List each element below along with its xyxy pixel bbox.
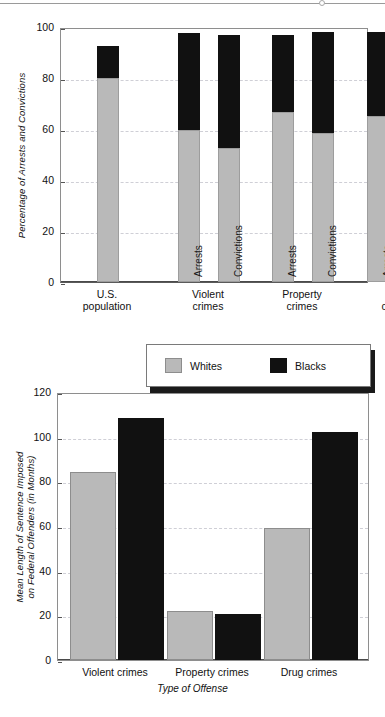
bar-segment-blacks bbox=[97, 46, 119, 78]
in-bar-label: Convictions bbox=[233, 225, 244, 277]
x-category-label-line: U.S. bbox=[62, 289, 152, 301]
y-tick-mark bbox=[58, 439, 62, 440]
y-tick-label: 40 bbox=[24, 175, 54, 185]
x-category-label: Property crimes bbox=[162, 667, 262, 679]
x-category-label: Drugcrimes bbox=[352, 289, 385, 312]
stacked-bar-chart: Percentage of Arrests and Convictions 02… bbox=[0, 8, 385, 328]
y-tick-mark bbox=[61, 182, 65, 183]
bottom-chart-plot-area bbox=[57, 393, 369, 661]
y-tick-mark bbox=[58, 573, 62, 574]
y-tick-mark bbox=[61, 284, 65, 285]
in-bar-label: Arrests bbox=[287, 245, 298, 277]
y-tick-label: 0 bbox=[24, 277, 54, 287]
x-category-label: Violent crimes bbox=[65, 667, 165, 679]
legend-item-whites: Whites bbox=[165, 358, 222, 373]
gray-swatch-icon bbox=[165, 358, 182, 373]
y-tick-mark bbox=[61, 233, 65, 234]
bar-segment-blacks bbox=[218, 35, 240, 148]
bar-segment-blacks bbox=[178, 33, 200, 130]
bar-whites bbox=[70, 472, 116, 660]
bar-blacks bbox=[312, 432, 358, 660]
x-category-label: Propertycrimes bbox=[257, 289, 347, 312]
x-category-label: Drug crimes bbox=[259, 667, 359, 679]
y-tick-mark bbox=[58, 662, 62, 663]
y-tick-mark bbox=[61, 131, 65, 132]
bar-whites bbox=[264, 528, 310, 660]
x-category-label-line: Violent bbox=[163, 289, 253, 301]
x-category-label-line: crimes bbox=[163, 301, 253, 313]
y-tick-label: 20 bbox=[24, 226, 54, 236]
y-tick-mark bbox=[58, 617, 62, 618]
y-tick-label: 80 bbox=[24, 73, 54, 83]
y-tick-mark bbox=[58, 528, 62, 529]
bar-segment-blacks bbox=[272, 35, 294, 113]
x-category-label-line: Property bbox=[257, 289, 347, 301]
legend-item-blacks: Blacks bbox=[270, 358, 326, 373]
x-category-label-line: Drug bbox=[352, 289, 385, 301]
legend-label-whites: Whites bbox=[190, 360, 222, 372]
grouped-bar-chart: Whites Blacks Mean Length of Sentence Im… bbox=[0, 340, 385, 717]
y-tick-label: 80 bbox=[21, 476, 51, 486]
bottom-chart-x-axis-title: Type of Offense bbox=[0, 683, 385, 694]
y-tick-mark bbox=[58, 394, 62, 395]
figure-page: Percentage of Arrests and Convictions 02… bbox=[0, 0, 385, 717]
x-category-label-line: crimes bbox=[257, 301, 347, 313]
bar-blacks bbox=[118, 418, 164, 660]
bar-whites bbox=[167, 611, 213, 660]
y-tick-label: 0 bbox=[21, 655, 51, 665]
y-tick-mark bbox=[61, 80, 65, 81]
bar-segment-blacks bbox=[312, 32, 334, 133]
page-corner-dot-icon bbox=[319, 0, 325, 6]
legend-label-blacks: Blacks bbox=[295, 360, 326, 372]
y-tick-label: 20 bbox=[21, 610, 51, 620]
y-tick-label: 100 bbox=[24, 22, 54, 32]
black-swatch-icon bbox=[270, 358, 287, 373]
stacked-bar bbox=[97, 46, 119, 282]
y-tick-mark bbox=[58, 483, 62, 484]
x-category-label: Violentcrimes bbox=[163, 289, 253, 312]
legend: Whites Blacks bbox=[146, 344, 371, 387]
y-tick-label: 60 bbox=[21, 521, 51, 531]
in-bar-label: Arrests bbox=[193, 245, 204, 277]
x-category-label-line: crimes bbox=[352, 301, 385, 313]
y-tick-mark bbox=[61, 29, 65, 30]
y-tick-label: 40 bbox=[21, 566, 51, 576]
y-tick-label: 100 bbox=[21, 432, 51, 442]
x-category-label: U.S.population bbox=[62, 289, 152, 312]
top-chart-plot-area bbox=[60, 28, 368, 283]
top-chart-y-axis-title: Percentage of Arrests and Convictions bbox=[16, 28, 27, 283]
bar-blacks bbox=[215, 614, 261, 660]
y-tick-label: 60 bbox=[24, 124, 54, 134]
bar-segment-blacks bbox=[367, 32, 385, 116]
in-bar-label: Convictions bbox=[327, 225, 338, 277]
x-category-label-line: population bbox=[62, 301, 152, 313]
y-tick-label: 120 bbox=[21, 387, 51, 397]
page-top-rule bbox=[0, 3, 385, 4]
bar-segment-whites bbox=[97, 78, 119, 282]
